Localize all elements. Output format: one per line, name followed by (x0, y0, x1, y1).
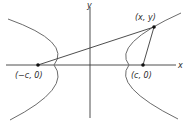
left-branch (8, 19, 58, 120)
right-focus-label: (c, 0) (131, 71, 152, 80)
y-axis-label: y (86, 1, 92, 10)
curve-point (152, 25, 156, 29)
curve-point-label: (x, y) (135, 13, 156, 22)
x-axis-label: x (177, 61, 183, 70)
right-focus-point (141, 63, 145, 67)
hyperbola-diagram: y x (x, y) (−c, 0) (c, 0) (0, 0, 186, 131)
left-focus-point (36, 63, 40, 67)
left-focus-label: (−c, 0) (15, 71, 43, 80)
